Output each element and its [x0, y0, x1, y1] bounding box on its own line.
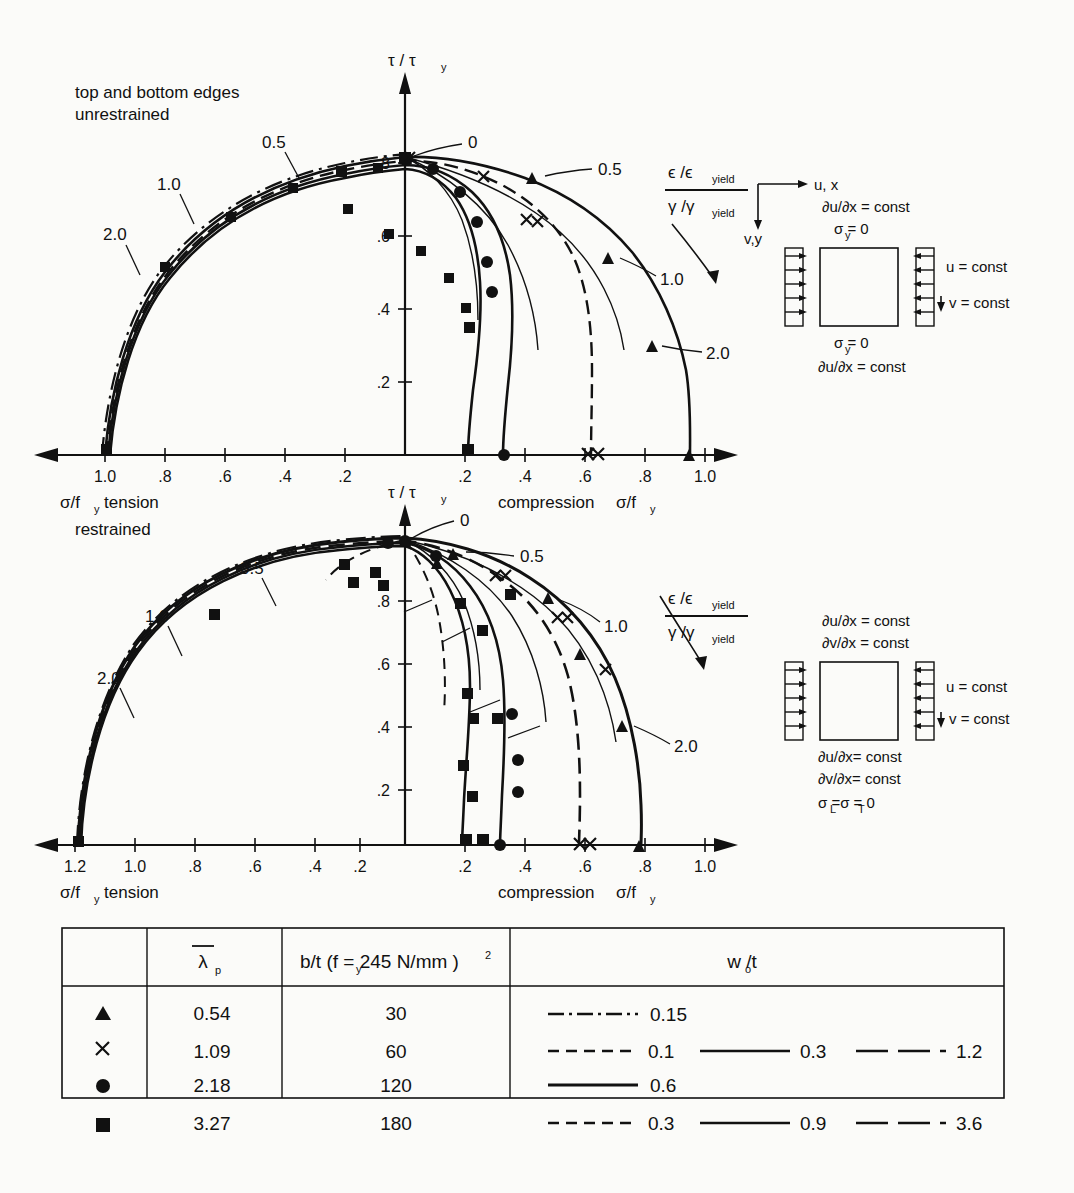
bc2-bottom-sub-b: T — [858, 803, 865, 815]
marker-square — [477, 625, 488, 636]
legend-marker-cross — [96, 1042, 109, 1055]
panel1-left-ann-10: 1.0 — [157, 175, 181, 194]
marker-circle — [471, 216, 483, 228]
bc1-top-line1: ∂u/∂x = const — [822, 198, 911, 215]
panel1-curves — [102, 154, 690, 455]
panel-unrestrained: top and bottom edges unrestrained τ / τ … — [34, 51, 748, 515]
panel2-ratio-arrow — [695, 656, 707, 670]
header-fy-sub: y — [356, 963, 362, 975]
table-row: 3.27 180 0.3 0.9 3.6 — [96, 1113, 982, 1134]
bc1-right-line2: v = const — [949, 294, 1010, 311]
panel2-markers — [73, 534, 645, 852]
panel2-x-left-word: tension — [104, 883, 159, 902]
panel2-curve-triangle — [78, 538, 641, 845]
marker-circle — [498, 449, 510, 461]
bc2-right-line2: v = const — [949, 710, 1010, 727]
header-wt: w /t — [726, 951, 757, 972]
marker-triangle — [616, 720, 628, 732]
marker-square — [370, 567, 381, 578]
table-header-row: λ p b/t (f = 245 N/mm ) y 2 w /t o — [192, 946, 757, 976]
bc1-bottom-sub: y — [845, 343, 851, 355]
legend-marker-circle — [96, 1079, 110, 1093]
marker-square — [505, 589, 516, 600]
panel1-caption-line2: unrestrained — [75, 105, 170, 124]
panel1-ratio-arc-c — [405, 157, 624, 350]
marker-square — [73, 836, 84, 847]
panel1-xtick-r4: 1.0 — [694, 468, 716, 485]
marker-square — [462, 444, 474, 456]
cell-bt: 30 — [385, 1003, 406, 1024]
panel2-ratio-legend: ϵ /ϵ yield γ /γ yield — [660, 589, 748, 670]
panel2-xtick-l2: .8 — [188, 858, 201, 875]
table-row: 0.54 30 0.15 — [95, 1003, 687, 1025]
marker-circle — [512, 786, 524, 798]
bc1-top-line2: σ = 0 — [834, 220, 869, 237]
panel2-x-right-label: σ/f — [616, 883, 636, 902]
marker-circle — [486, 286, 498, 298]
header-lambda: λ — [198, 951, 208, 972]
cell-wt-value: 0.15 — [650, 1004, 687, 1025]
panel1-markers — [101, 150, 695, 461]
panel1-ratio-legend: ϵ /ϵ yield γ /γ yield — [665, 163, 748, 284]
panel2-ann-20: 2.0 — [674, 737, 698, 756]
header-lambda-sub: p — [215, 964, 221, 976]
marker-square — [384, 229, 394, 239]
bc2-right-line1: u = const — [946, 678, 1008, 695]
panel1-x-arrow-right — [714, 448, 738, 462]
panel2-y-arrow — [399, 504, 411, 526]
bc2-v-marker-head — [937, 718, 945, 728]
cell-lambda: 0.54 — [194, 1003, 231, 1024]
cell-wt-value: 0.3 — [800, 1041, 826, 1062]
bc2-bottom-sub-a: L — [830, 803, 836, 815]
cell-lambda: 2.18 — [194, 1075, 231, 1096]
marker-square — [461, 303, 471, 313]
bc2-top-line2: ∂v/∂x = const — [822, 634, 910, 651]
bc-unrestrained: u, x v,y ∂u/∂x = const σ = 0 y u = con — [744, 176, 1010, 375]
marker-circle — [382, 537, 394, 549]
header-bt: b/t (f = 245 N/mm ) — [300, 951, 459, 972]
panel1-x-arrow-left — [34, 448, 58, 462]
bc1-right-arrowheads — [913, 253, 921, 315]
panel2-caption-line1: restrained — [75, 520, 151, 539]
figure-canvas: top and bottom edges unrestrained τ / τ … — [0, 0, 1074, 1193]
panel2-left-ann-10: 1.0 — [145, 607, 169, 626]
marker-square — [467, 791, 478, 802]
panel1-ytick-1: .4 — [377, 301, 390, 318]
marker-square — [288, 183, 298, 193]
marker-triangle — [602, 252, 614, 264]
panel1-x-right-sub: y — [650, 503, 656, 515]
bc1-right-box — [916, 248, 934, 326]
marker-square — [458, 760, 469, 771]
panel1-ratio-num: ϵ /ϵ — [668, 163, 692, 182]
panel2-ann-0: 0 — [460, 511, 469, 530]
panel1-xtick-r2: .6 — [578, 468, 591, 485]
panel2-xtick-l4: .4 — [308, 858, 321, 875]
bc2-bottom-line1: ∂u/∂x= const — [818, 748, 902, 765]
panel2-ann-05: 0.5 — [520, 547, 544, 566]
marker-square — [160, 262, 170, 272]
bc2-bottom-line3: σ =σ = 0 — [818, 794, 875, 811]
panel1-ann-20: 2.0 — [706, 344, 730, 363]
marker-square — [492, 713, 503, 724]
bc1-v-marker-head — [937, 302, 945, 312]
panel2-curve-circle — [80, 543, 505, 845]
panel2-y-axis-label-sub: y — [441, 493, 447, 505]
bc1-u-arrow — [798, 180, 808, 188]
marker-circle — [454, 186, 466, 198]
cell-wt-value: 0.1 — [648, 1041, 674, 1062]
panel1-xtick-l0: 1.0 — [94, 468, 116, 485]
panel2-ratio-num-sub: yield — [712, 599, 735, 611]
marker-square — [416, 246, 426, 256]
panel2-x-arrow-left — [34, 838, 58, 852]
bc1-bottom-line1: σ = 0 — [834, 334, 869, 351]
cell-wt-value: 3.6 — [956, 1113, 982, 1134]
cell-bt: 180 — [380, 1113, 412, 1134]
panel2-xtick-l0: 1.2 — [64, 858, 86, 875]
panel1-xtick-l1: .8 — [158, 468, 171, 485]
legend-table: λ p b/t (f = 245 N/mm ) y 2 w /t o 0.54 … — [62, 928, 1004, 1134]
panel2-x-left-sub: y — [94, 893, 100, 905]
marker-square — [343, 204, 353, 214]
cell-lambda: 1.09 — [194, 1041, 231, 1062]
panel1-xtick-l2: .6 — [218, 468, 231, 485]
panel-restrained: restrained τ / τ y 1.2 1.0 .8 .6 .4 .2 .… — [34, 483, 748, 905]
